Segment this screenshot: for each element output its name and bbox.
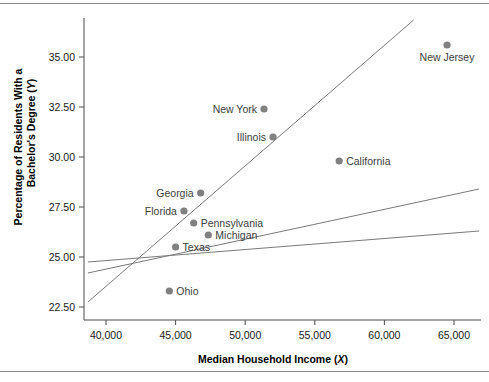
data-point-marker[interactable]: [190, 219, 197, 226]
x-tick-label: 65,000: [438, 329, 470, 341]
data-point-marker[interactable]: [205, 231, 212, 238]
x-axis-title: Median Household Income (X): [198, 353, 348, 365]
data-point-label: Florida: [145, 205, 177, 217]
scatter-plot: 22.5025.0027.5030.0032.5035.0040,00045,0…: [0, 0, 489, 382]
data-point-marker[interactable]: [197, 189, 204, 196]
data-point-marker[interactable]: [336, 157, 343, 164]
y-axis-title-line1: Percentage of Residents With a: [12, 68, 24, 225]
y-tick-label: 27.50: [49, 201, 75, 213]
data-point-label: California: [346, 155, 391, 167]
x-tick-label: 55,000: [299, 329, 331, 341]
y-axis-title-line2: Bachelor's Degree (Y): [25, 79, 37, 188]
data-point-marker[interactable]: [180, 207, 187, 214]
axes: 22.5025.0027.5030.0032.5035.0040,00045,0…: [49, 18, 481, 341]
flat-line: [88, 231, 479, 262]
data-point-label: Georgia: [156, 187, 194, 199]
data-point-marker[interactable]: [269, 133, 276, 140]
y-tick-label: 32.50: [49, 101, 75, 113]
y-tick-label: 30.00: [49, 151, 75, 163]
data-point-label: New Jersey: [420, 51, 476, 63]
y-tick-label: 22.50: [49, 301, 75, 313]
y-tick-label: 25.00: [49, 251, 75, 263]
data-point-label: Texas: [183, 241, 210, 253]
data-point-label: Pennsylvania: [201, 217, 264, 229]
data-point-label: Ohio: [176, 285, 198, 297]
data-point-marker[interactable]: [172, 243, 179, 250]
chart-figure: 22.5025.0027.5030.0032.5035.0040,00045,0…: [0, 0, 489, 382]
x-tick-label: 50,000: [229, 329, 261, 341]
data-point-label: New York: [213, 103, 258, 115]
y-tick-label: 35.00: [49, 51, 75, 63]
data-point-marker[interactable]: [166, 287, 173, 294]
data-point-marker[interactable]: [443, 41, 450, 48]
x-tick-label: 45,000: [160, 329, 192, 341]
medium-line: [88, 189, 479, 273]
data-points: New JerseyNew YorkIllinoisCaliforniaGeor…: [145, 41, 475, 297]
x-tick-label: 60,000: [368, 329, 400, 341]
data-point-label: Michigan: [215, 229, 257, 241]
x-tick-label: 40,000: [90, 329, 122, 341]
data-point-label: Illinois: [237, 131, 266, 143]
data-point-marker[interactable]: [260, 105, 267, 112]
